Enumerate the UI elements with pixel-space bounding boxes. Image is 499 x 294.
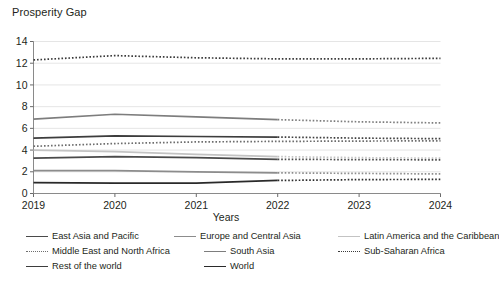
- chart-legend: East Asia and PacificEurope and Central …: [0, 229, 452, 274]
- legend-item[interactable]: Europe and Central Asia: [174, 229, 301, 244]
- legend-swatch-solid: [338, 236, 360, 237]
- legend-label: East Asia and Pacific: [52, 232, 139, 241]
- series-line-actual: [34, 157, 278, 160]
- y-tick-label: 2: [22, 165, 28, 177]
- series-line-actual: [34, 136, 278, 138]
- legend-swatch-dotted: [338, 251, 360, 252]
- x-tick-label: 2022: [266, 199, 290, 211]
- y-tick-labels: 02468101214: [16, 35, 28, 199]
- x-tick-marks: [34, 194, 441, 198]
- series-line-actual: [34, 150, 278, 157]
- legend-label: Latin America and the Caribbean: [364, 232, 499, 241]
- legend-row: East Asia and PacificEurope and Central …: [0, 229, 452, 244]
- legend-item[interactable]: World: [204, 259, 254, 274]
- data-series-group: [34, 56, 441, 184]
- legend-swatch-solid: [204, 266, 226, 267]
- legend-label: Europe and Central Asia: [200, 232, 301, 241]
- legend-item[interactable]: Rest of the world: [26, 259, 122, 274]
- series-line-actual: [34, 114, 278, 119]
- legend-label: Sub-Saharan Africa: [364, 247, 445, 256]
- legend-row: Middle East and North AfricaSouth AsiaSu…: [0, 244, 452, 259]
- series-line-projection: [278, 179, 441, 180]
- series-line-projection: [278, 120, 441, 123]
- series-line-dotted: [34, 56, 441, 60]
- legend-label: Middle East and North Africa: [52, 247, 170, 256]
- legend-label: Rest of the world: [52, 262, 122, 271]
- series-line-projection: [278, 159, 441, 160]
- series-line-actual: [34, 180, 278, 183]
- y-tick-label: 14: [16, 35, 28, 47]
- series-line-projection: [278, 137, 441, 139]
- legend-item[interactable]: East Asia and Pacific: [26, 229, 139, 244]
- y-tick-label: 8: [22, 100, 28, 112]
- y-tick-label: 6: [22, 122, 28, 134]
- legend-item[interactable]: Latin America and the Caribbean: [338, 229, 499, 244]
- x-axis-title: Years: [0, 211, 452, 223]
- y-tick-label: 12: [16, 57, 28, 69]
- legend-item[interactable]: Middle East and North Africa: [26, 244, 170, 259]
- x-tick-label: 2023: [347, 199, 371, 211]
- x-tick-label: 2024: [429, 199, 453, 211]
- legend-swatch-solid: [204, 251, 226, 252]
- x-tick-label: 2021: [185, 199, 209, 211]
- y-tick-label: 4: [22, 144, 28, 156]
- y-tick-label: 0: [22, 187, 28, 199]
- legend-swatch-dotted: [26, 251, 48, 252]
- x-tick-label: 2020: [103, 199, 127, 211]
- legend-label: South Asia: [230, 247, 274, 256]
- legend-row: Rest of the worldWorld: [0, 259, 452, 274]
- x-tick-labels: 201920202021202220232024: [22, 199, 453, 211]
- x-tick-label: 2019: [22, 199, 46, 211]
- y-tick-label: 10: [16, 79, 28, 91]
- series-line-projection: [278, 173, 441, 174]
- legend-item[interactable]: Sub-Saharan Africa: [338, 244, 445, 259]
- legend-swatch-solid: [26, 236, 48, 237]
- series-line-dotted: [34, 141, 441, 146]
- series-line-projection: [278, 157, 441, 159]
- legend-item[interactable]: South Asia: [204, 244, 274, 259]
- legend-swatch-solid: [174, 236, 196, 237]
- legend-label: World: [230, 262, 254, 271]
- y-tick-marks: [30, 42, 34, 194]
- legend-swatch-solid: [26, 266, 48, 267]
